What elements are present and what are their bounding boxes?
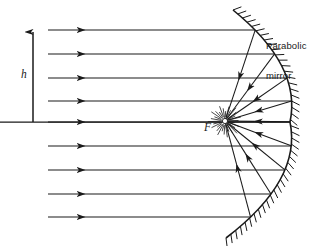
parabolic-mirror-figure: Parabolic mirror F h bbox=[0, 0, 322, 246]
mirror-hatch-mark bbox=[256, 29, 265, 31]
mirror-hatch-mark bbox=[289, 156, 295, 162]
focal-point-label: F bbox=[204, 121, 211, 133]
mirror-hatch-mark bbox=[262, 205, 265, 213]
aperture-height-label: h bbox=[21, 68, 27, 80]
focus-burst-stroke bbox=[224, 125, 225, 135]
reflected-ray-arrow bbox=[255, 101, 292, 112]
mirror-hatch-mark bbox=[254, 214, 256, 223]
mirror-hatch-mark bbox=[291, 126, 299, 129]
mirror-hatch-mark bbox=[258, 209, 261, 218]
mirror-hatch-mark bbox=[226, 238, 227, 246]
focal-point-marker bbox=[222, 118, 227, 123]
reflected-ray-arrow bbox=[239, 30, 256, 80]
incoming-parallel-rays bbox=[48, 30, 292, 217]
mirror-hatch-mark bbox=[291, 144, 298, 149]
mirror-hatch-mark bbox=[288, 162, 294, 169]
parabolic-mirror-label-line1: Parabolic bbox=[266, 41, 307, 51]
mirror-hatch-mark bbox=[242, 15, 251, 18]
mirror-hatch-mark bbox=[292, 138, 300, 143]
parabolic-mirror-label: Parabolic mirror bbox=[266, 20, 307, 102]
parabolic-mirror-label-line2: mirror bbox=[266, 71, 307, 81]
mirror-hatch-mark bbox=[283, 174, 288, 181]
focal-point-dot bbox=[222, 118, 227, 123]
mirror-hatch-mark bbox=[252, 24, 261, 26]
mirror-hatch-mark bbox=[280, 179, 285, 187]
reflected-ray-segment bbox=[225, 121, 252, 143]
mirror-hatch-mark bbox=[247, 20, 256, 23]
mirror-hatch-mark bbox=[277, 185, 281, 193]
mirror-hatch-mark bbox=[270, 195, 274, 203]
mirror-hatch-mark bbox=[236, 230, 237, 239]
mirror-hatch-mark bbox=[231, 234, 232, 243]
mirror-hatch-mark bbox=[274, 190, 278, 198]
reflected-ray-arrow bbox=[255, 132, 291, 146]
mirror-hatch-mark bbox=[292, 107, 300, 112]
mirror-hatch-mark bbox=[291, 113, 298, 118]
mirror-hatch-mark bbox=[250, 218, 252, 227]
mirror-hatch-mark bbox=[240, 226, 242, 235]
mirror-hatch-mark bbox=[291, 150, 298, 156]
reflected-ray-arrow bbox=[246, 154, 271, 194]
reflected-ray-arrow bbox=[252, 143, 285, 170]
mirror-hatch-mark bbox=[238, 11, 246, 14]
mirror-hatch-mark bbox=[245, 222, 247, 231]
mirror-hatch-mark bbox=[290, 120, 297, 126]
reflected-ray-arrow bbox=[237, 164, 251, 217]
mirror-hatch-mark bbox=[233, 7, 241, 10]
mirror-hatch-mark bbox=[286, 168, 292, 175]
mirror-hatch-mark bbox=[266, 200, 269, 208]
mirror-hatch-mark bbox=[291, 132, 299, 136]
